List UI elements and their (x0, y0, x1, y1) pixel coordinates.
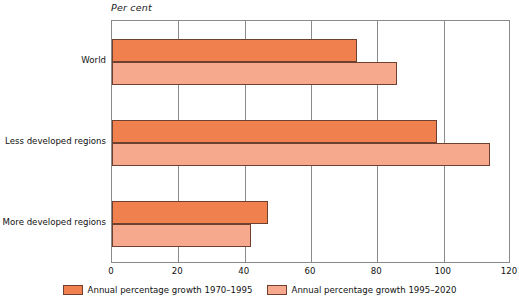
chart-legend: Annual percentage growth 1970–1995Annual… (0, 285, 519, 295)
legend-label: Annual percentage growth 1995–2020 (292, 285, 457, 295)
x-tick-label: 100 (434, 266, 450, 276)
plot-area (111, 20, 510, 263)
bar (112, 224, 251, 247)
bar (112, 62, 397, 85)
category-label: Less developed regions (0, 136, 106, 146)
legend-label: Annual percentage growth 1970–1995 (88, 285, 253, 295)
bar (112, 120, 437, 143)
bar (112, 201, 268, 224)
x-tick-label: 20 (172, 266, 183, 276)
legend-swatch-icon (63, 285, 83, 295)
bar-chart: Per cent WorldLess developed regionsMore… (0, 0, 519, 303)
x-tick-label: 120 (501, 266, 517, 276)
legend-item[interactable]: Annual percentage growth 1995–2020 (267, 285, 457, 295)
x-tick-label: 60 (305, 266, 316, 276)
x-tick-label: 0 (108, 266, 113, 276)
x-tick-label: 40 (238, 266, 249, 276)
chart-axis-unit-title: Per cent (111, 2, 152, 13)
legend-item[interactable]: Annual percentage growth 1970–1995 (63, 285, 253, 295)
category-label: More developed regions (0, 217, 106, 227)
x-tick-label: 80 (371, 266, 382, 276)
category-label: World (0, 55, 106, 65)
bar (112, 39, 357, 62)
gridline (444, 21, 445, 262)
bar (112, 143, 490, 166)
legend-swatch-icon (267, 285, 287, 295)
